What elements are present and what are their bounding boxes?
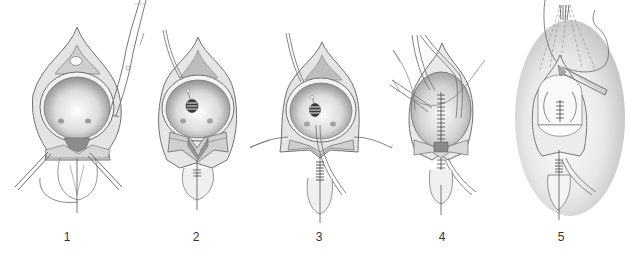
panel-1-number: 1 <box>57 230 77 244</box>
panel-3-illustration <box>250 0 400 255</box>
panel-4-illustration <box>390 0 510 255</box>
panel-3-drawing <box>250 0 400 255</box>
panel-5-illustration <box>500 0 631 255</box>
panel-3-number: 3 <box>309 230 329 244</box>
panel-4-drawing <box>390 0 510 255</box>
panel-4-number: 4 <box>432 230 452 244</box>
panel-1-drawing <box>0 0 160 255</box>
panel-5-drawing <box>500 0 631 255</box>
panel-2-number: 2 <box>186 230 206 244</box>
panel-5-number: 5 <box>551 230 571 244</box>
panel-1-illustration <box>0 0 160 255</box>
